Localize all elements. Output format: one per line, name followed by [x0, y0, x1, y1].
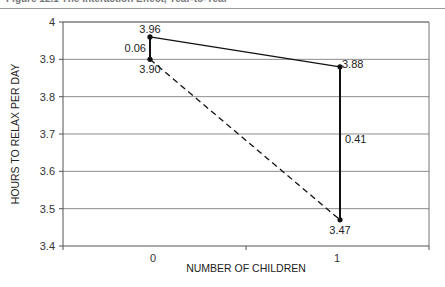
data-point-marker — [147, 57, 152, 62]
x-tick-label: 0 — [150, 252, 156, 264]
y-tick-label: 3.6 — [40, 165, 55, 177]
data-label: 3.88 — [342, 58, 363, 70]
data-label: 3.47 — [329, 224, 350, 236]
y-tick-label: 3.7 — [40, 128, 55, 140]
x-tick-label: 1 — [334, 252, 340, 264]
y-tick-label: 3.9 — [40, 53, 55, 65]
y-tick-label: 4 — [49, 16, 55, 28]
data-point-marker — [337, 217, 342, 222]
difference-label: 0.41 — [345, 133, 366, 145]
y-tick-label: 3.8 — [40, 91, 55, 103]
dashed-series-line — [150, 59, 340, 220]
difference-label: 0.06 — [125, 42, 146, 54]
data-label: 3.90 — [139, 63, 160, 75]
data-label: 3.96 — [139, 23, 160, 35]
solid-series-line — [150, 37, 340, 67]
data-point-marker — [147, 34, 152, 39]
y-axis-title: HOURS TO RELAX PER DAY — [9, 64, 21, 205]
chart: 3.43.53.63.73.83.9401NUMBER OF CHILDRENH… — [0, 0, 445, 287]
y-tick-label: 3.5 — [40, 203, 55, 215]
x-axis-title: NUMBER OF CHILDREN — [186, 262, 306, 274]
y-tick-label: 3.4 — [40, 240, 55, 252]
